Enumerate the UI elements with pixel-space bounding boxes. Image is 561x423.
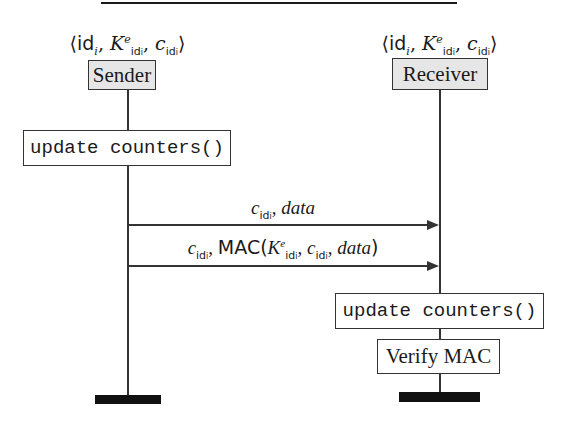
receiver-lifeline-terminator (399, 392, 480, 402)
verify-mac-label: Verify MAC (386, 344, 492, 369)
sender-update-counters-label: update counters() (30, 137, 224, 159)
message-2-label: cidi, MAC(Keidi, cidi, data) (128, 236, 438, 259)
message-1-label: cidi, data (128, 197, 438, 219)
sender-label: Sender (93, 63, 151, 88)
sender-lifeline-terminator (95, 395, 161, 404)
receiver-label: Receiver (403, 62, 478, 87)
message-2-arrowhead-icon (427, 261, 439, 271)
message-1-arrowhead-icon (427, 220, 439, 230)
top-rule (101, 2, 457, 4)
receiver-state-tuple: ⟨idi, Keidi, cidi⟩ (352, 30, 527, 56)
receiver-update-counters-label: update counters() (343, 300, 537, 322)
sender-state-tuple: ⟨idi, Keidi, cidi⟩ (40, 30, 215, 56)
sender-actor-box: Sender (88, 60, 156, 90)
message-2-arrow (128, 265, 428, 267)
message-1-arrow (128, 224, 428, 226)
receiver-actor-box: Receiver (392, 58, 488, 90)
sender-update-counters-box: update counters() (23, 130, 231, 166)
verify-mac-box: Verify MAC (377, 339, 500, 374)
receiver-update-counters-box: update counters() (335, 293, 544, 329)
